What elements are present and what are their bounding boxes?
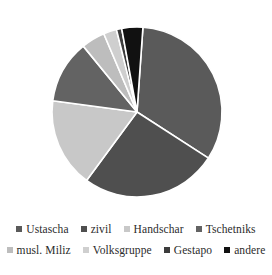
legend-item-label: Gestapo <box>174 244 212 257</box>
legend-item-label: musl. Miliz <box>17 244 71 257</box>
chart-legend: UstaschazivilHandscharTschetniks musl. M… <box>0 218 272 266</box>
legend-swatch-icon <box>224 247 230 253</box>
legend-swatch-icon <box>124 226 130 232</box>
legend-item-volksgruppe[interactable]: Volksgruppe <box>77 244 158 257</box>
legend-item-label: Handschar <box>134 223 184 236</box>
legend-swatch-icon <box>83 247 89 253</box>
legend-item-zivil[interactable]: zivil <box>75 223 118 236</box>
legend-item-tschetniks[interactable]: Tschetniks <box>190 223 262 236</box>
legend-row: musl. MilizVolksgruppeGestapoandere <box>0 242 272 258</box>
legend-item-label: zivil <box>91 223 112 236</box>
legend-swatch-icon <box>16 226 22 232</box>
legend-item-ustascha[interactable]: Ustascha <box>10 223 74 236</box>
legend-item-label: andere <box>234 244 265 257</box>
pie-plot-area <box>0 0 272 212</box>
legend-item-gestapo[interactable]: Gestapo <box>158 244 218 257</box>
legend-item-label: Ustascha <box>26 223 68 236</box>
pie-svg <box>0 0 272 212</box>
legend-item-handschar[interactable]: Handschar <box>118 223 190 236</box>
legend-item-andere[interactable]: andere <box>218 244 271 257</box>
legend-item-label: Volksgruppe <box>93 244 152 257</box>
legend-item-label: Tschetniks <box>206 223 256 236</box>
pie-chart-figure: UstaschazivilHandscharTschetniks musl. M… <box>0 0 272 275</box>
legend-row: UstaschazivilHandscharTschetniks <box>0 221 272 237</box>
legend-swatch-icon <box>81 226 87 232</box>
legend-swatch-icon <box>196 226 202 232</box>
legend-item-musl-miliz[interactable]: musl. Miliz <box>1 244 77 257</box>
legend-swatch-icon <box>7 247 13 253</box>
legend-swatch-icon <box>164 247 170 253</box>
